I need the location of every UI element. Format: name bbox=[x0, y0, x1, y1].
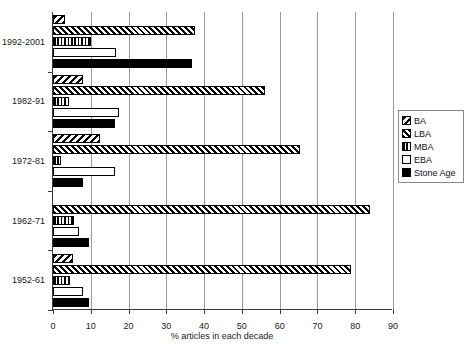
x-axis-tick-label: 20 bbox=[124, 321, 134, 331]
y-axis-tick bbox=[48, 72, 53, 73]
legend-item-mba[interactable]: MBA bbox=[402, 140, 460, 153]
bar-stone-age-1962-71 bbox=[53, 238, 89, 247]
x-axis-tick-label: 70 bbox=[312, 321, 322, 331]
bar-stone-age-1982-91 bbox=[53, 119, 115, 128]
bar-mba-1952-61 bbox=[53, 276, 70, 285]
x-axis-tick bbox=[393, 309, 394, 314]
bar-mba-1962-71 bbox=[53, 216, 74, 225]
y-axis-category-label: 1952-61 bbox=[12, 275, 45, 285]
legend-item-label: Stone Age bbox=[414, 168, 456, 178]
category-group: 1972-81 bbox=[53, 131, 392, 191]
bar-lba-1962-71 bbox=[53, 205, 370, 214]
legend-item-stone-age[interactable]: Stone Age bbox=[402, 166, 460, 179]
x-axis-tick-label: 60 bbox=[275, 321, 285, 331]
legend-swatch-icon bbox=[402, 142, 411, 151]
legend-item-lba[interactable]: LBA bbox=[402, 127, 460, 140]
legend-item-label: BA bbox=[414, 116, 426, 126]
category-group: 1992-2001 bbox=[53, 12, 392, 72]
bar-eba-1952-61 bbox=[53, 287, 83, 296]
x-axis-title: % articles in each decade bbox=[52, 331, 392, 341]
y-axis-tick bbox=[48, 310, 53, 311]
bar-eba-1962-71 bbox=[53, 227, 79, 236]
x-axis-tick-label: 90 bbox=[388, 321, 398, 331]
y-axis-category-label: 1982-91 bbox=[12, 96, 45, 106]
legend-swatch-icon bbox=[402, 116, 411, 125]
bar-stone-age-1952-61 bbox=[53, 298, 89, 307]
bar-ba-1992-2001 bbox=[53, 15, 65, 24]
x-axis-tick-label: 10 bbox=[86, 321, 96, 331]
x-axis-tick-label: 30 bbox=[161, 321, 171, 331]
bar-mba-1992-2001 bbox=[53, 37, 91, 46]
y-axis-tick bbox=[48, 250, 53, 251]
legend-item-eba[interactable]: EBA bbox=[402, 153, 460, 166]
bar-ba-1982-91 bbox=[53, 75, 83, 84]
bar-eba-1982-91 bbox=[53, 108, 119, 117]
bar-mba-1982-91 bbox=[53, 97, 69, 106]
x-axis-tick-label: 80 bbox=[350, 321, 360, 331]
category-group: 1982-91 bbox=[53, 72, 392, 132]
bar-ba-1972-81 bbox=[53, 134, 100, 143]
bar-chart: 01020304050607080901952-611962-711972-81… bbox=[0, 0, 470, 351]
y-axis-tick bbox=[48, 131, 53, 132]
y-axis-category-label: 1962-71 bbox=[12, 216, 45, 226]
bar-mba-1972-81 bbox=[53, 156, 61, 165]
chart-legend: BALBAMBAEBAStone Age bbox=[398, 110, 464, 183]
bar-lba-1992-2001 bbox=[53, 26, 195, 35]
legend-item-label: EBA bbox=[414, 155, 432, 165]
bar-eba-1992-2001 bbox=[53, 48, 116, 57]
bar-lba-1972-81 bbox=[53, 145, 300, 154]
bar-lba-1952-61 bbox=[53, 265, 351, 274]
legend-item-ba[interactable]: BA bbox=[402, 114, 460, 127]
legend-item-label: LBA bbox=[414, 129, 431, 139]
legend-swatch-icon bbox=[402, 129, 411, 138]
bar-stone-age-1972-81 bbox=[53, 178, 83, 187]
plot-area: 01020304050607080901952-611962-711972-81… bbox=[52, 12, 392, 310]
legend-swatch-icon bbox=[402, 155, 411, 164]
y-axis-tick bbox=[48, 191, 53, 192]
legend-item-label: MBA bbox=[414, 142, 434, 152]
legend-swatch-icon bbox=[402, 168, 411, 177]
bar-eba-1972-81 bbox=[53, 167, 115, 176]
bar-ba-1952-61 bbox=[53, 254, 73, 263]
gridline bbox=[393, 12, 394, 309]
bar-stone-age-1992-2001 bbox=[53, 59, 192, 68]
x-axis-tick-label: 40 bbox=[199, 321, 209, 331]
y-axis-category-label: 1972-81 bbox=[12, 156, 45, 166]
category-group: 1952-61 bbox=[53, 250, 392, 310]
category-group: 1962-71 bbox=[53, 191, 392, 251]
x-axis-tick-label: 0 bbox=[50, 321, 55, 331]
bar-lba-1982-91 bbox=[53, 86, 265, 95]
x-axis-tick-label: 50 bbox=[237, 321, 247, 331]
y-axis-category-label: 1992-2001 bbox=[2, 37, 45, 47]
